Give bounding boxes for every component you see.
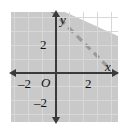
y-tick-label-neg2: –2 [34,96,47,109]
x-tick-label-2: 2 [85,77,92,90]
plot-area [11,12,118,122]
gridline-v [14,12,15,122]
y-axis-label: y [60,13,66,26]
gridline-v [28,12,29,122]
gridline-h [11,100,118,101]
x-axis-right-arrow-icon [112,69,119,77]
y-axis [55,12,57,122]
y-axis-down-arrow-icon [52,117,60,124]
gridline-v [83,12,84,122]
y-tick-label-2: 2 [40,38,47,51]
origin-label: O [41,76,50,89]
x-tick-label-neg2: –2 [18,77,31,90]
gridline-h [11,45,118,46]
inequality-graph-figure: x y O –2 2 2 –2 [0,0,126,134]
gridline-v [111,12,112,122]
gridline-v [97,12,98,122]
gridline-h [11,31,118,32]
x-axis [11,72,118,74]
gridline-h [11,59,118,60]
y-axis-up-arrow-icon [52,10,60,17]
x-axis-label: x [105,60,111,73]
gridline-v [69,12,70,122]
gridline-h [11,114,118,115]
x-axis-left-arrow-icon [9,69,16,77]
